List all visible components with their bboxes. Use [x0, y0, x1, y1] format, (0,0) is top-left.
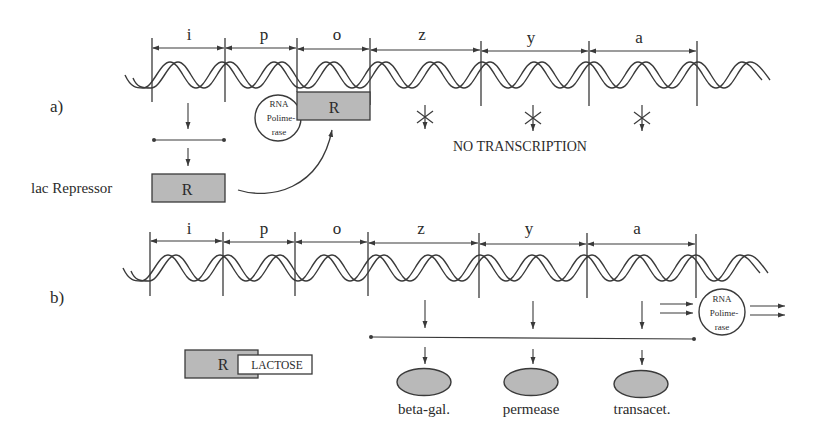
rna-pol-line2: Polime- [710, 308, 739, 318]
panel-a-segment-labels: i p o z y a [187, 25, 644, 47]
segment-label-o: o [333, 219, 342, 238]
asterisk-icon [417, 105, 433, 129]
lac-operon-diagram: a) i p o z y a [0, 0, 825, 441]
asterisk-icon [634, 105, 650, 131]
repressor-lactose-complex: R LACTOSE [185, 350, 312, 378]
product-label: beta-gal. [398, 401, 450, 417]
product-label: transacet. [613, 401, 670, 417]
lac-repressor-protein: R [152, 174, 225, 202]
panel-a-i-pathway [154, 103, 224, 166]
segment-label-i: i [187, 219, 192, 238]
panel-a-dna-helix [125, 62, 770, 88]
panel-a-dimension-arrows [153, 48, 696, 51]
segment-label-y: y [527, 28, 536, 47]
panel-a-label: a) [50, 97, 63, 116]
panel-b-dimension-arrows [151, 241, 695, 244]
segment-label-y: y [525, 219, 534, 238]
operator-repressor-label: R [329, 99, 340, 116]
product-permease: permease [503, 369, 560, 418]
repressor-box-label: R [182, 181, 193, 198]
panel-a-rna-polymerase: RNA Polime- rase [255, 95, 301, 141]
rna-pol-line3: rase [715, 322, 730, 332]
repressor-label: R [218, 356, 229, 373]
segment-label-a: a [633, 219, 641, 238]
rna-pol-line3: rase [272, 127, 287, 137]
segment-label-z: z [417, 219, 425, 238]
product-transacetylase: transacet. [613, 371, 670, 418]
asterisk-icon [525, 105, 541, 131]
panel-b-segment-labels: i p o z y a [187, 219, 642, 238]
product-beta-galactosidase: beta-gal. [397, 369, 451, 418]
segment-label-o: o [333, 25, 342, 44]
panel-a-blocked-markers [417, 105, 650, 131]
rna-pol-line2: Polime- [267, 113, 296, 123]
panel-b-dna-helix [123, 255, 768, 281]
product-label: permease [503, 401, 560, 417]
segment-label-p: p [260, 219, 269, 238]
rna-pol-line1: RNA [269, 99, 289, 109]
panel-b-label: b) [50, 288, 64, 307]
segment-label-i: i [187, 25, 192, 44]
segment-label-p: p [260, 25, 269, 44]
panel-b-transcription-arrows [371, 300, 694, 365]
panel-a-operator-repressor: R [297, 92, 370, 120]
segment-label-a: a [635, 28, 643, 47]
panel-b: b) i p o z y a [50, 219, 785, 417]
rna-pol-line1: RNA [712, 294, 732, 304]
segment-label-z: z [418, 25, 426, 44]
no-transcription-label: NO TRANSCRIPTION [453, 139, 587, 154]
lac-repressor-label: lac Repressor [31, 180, 112, 196]
lactose-label: LACTOSE [251, 359, 303, 371]
panel-b-products: beta-gal. permease transacet. [397, 369, 671, 418]
panel-b-rna-polymerase: RNA Polime- rase [660, 289, 785, 335]
panel-a: a) i p o z y a [31, 25, 770, 202]
